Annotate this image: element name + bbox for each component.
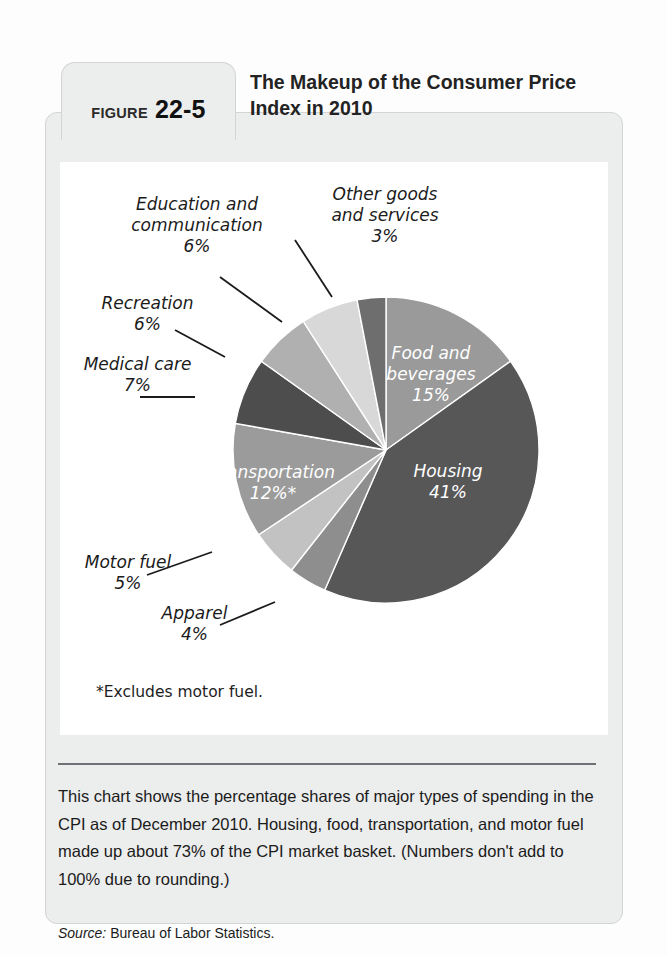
figure-word-label: FIGURE	[91, 105, 148, 121]
pie-label-recreation: Recreation 6%	[70, 293, 225, 335]
source-label: Source:	[58, 925, 106, 941]
figure-footnote: *Excludes motor fuel.	[96, 683, 263, 701]
pie-label-education: Education and communication 6%	[102, 194, 292, 257]
pie-label-motor-fuel: Motor fuel 5%	[48, 552, 208, 594]
pie-label-housing: Housing 41%	[378, 461, 518, 503]
figure-caption: This chart shows the percentage shares o…	[58, 783, 603, 893]
leader-line-education	[220, 277, 282, 322]
caption-divider	[58, 763, 596, 765]
source-text: Bureau of Labor Statistics.	[110, 925, 274, 941]
pie-label-food-beverages: Food and beverages 15%	[356, 343, 506, 406]
pie-label-other-goods: Other goods and services 3%	[300, 184, 470, 247]
pie-label-medical-care: Medical care 7%	[50, 354, 225, 396]
figure-page: FIGURE22-5 The Makeup of the Consumer Pr…	[0, 0, 667, 956]
pie-label-apparel: Apparel 4%	[122, 603, 267, 645]
leader-line-other-goods	[295, 240, 332, 297]
pie-label-transportation: Transportation 12%*	[178, 462, 368, 504]
figure-title: The Makeup of the Consumer Price Index i…	[250, 69, 590, 121]
figure-number-tab: FIGURE22-5	[61, 62, 236, 140]
figure-tab-content: FIGURE22-5	[62, 95, 235, 124]
figure-source: Source: Bureau of Labor Statistics.	[58, 925, 274, 941]
chart-panel: Education and communication 6% Recreatio…	[60, 162, 608, 735]
figure-number: 22-5	[155, 95, 206, 123]
